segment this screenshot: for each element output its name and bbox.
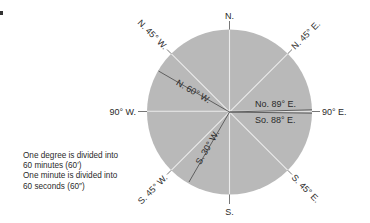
south-label: S. (225, 207, 234, 217)
sw-tick (167, 170, 171, 174)
bearing-n89e-label: No. 89° E. (255, 99, 296, 109)
nw-label: N. 45° W. (136, 18, 170, 52)
note-line-2: 60 minutes (60′) (23, 161, 153, 171)
ne-tick (288, 50, 292, 54)
north-label: N. (225, 11, 234, 21)
west-label: 90° W. (109, 107, 136, 117)
ne-label: N. 45° E. (289, 19, 322, 52)
east-label: 90° E. (322, 107, 347, 117)
bearing-s88e-label: So. 88° E. (255, 115, 296, 125)
note-line-3: One minute is divided into (23, 171, 153, 181)
se-tick (288, 170, 292, 174)
se-label: S. 45° E. (289, 172, 321, 204)
note-line-4: 60 seconds (60″) (23, 182, 153, 192)
nw-tick (167, 50, 171, 54)
degree-note: One degree is divided into 60 minutes (6… (23, 151, 153, 192)
note-line-1: One degree is divided into (23, 151, 153, 161)
